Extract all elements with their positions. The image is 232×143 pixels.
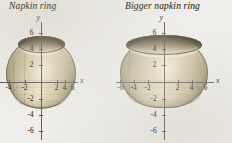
y-tick-2 bbox=[39, 65, 43, 66]
x-tick-label-6: 6 bbox=[67, 84, 78, 92]
panel-napkin-ring: Napkin ring y x bbox=[0, 0, 116, 143]
panel-title-napkin-ring: Napkin ring bbox=[9, 1, 56, 11]
y-axis-line bbox=[41, 22, 42, 140]
y-tick-6 bbox=[162, 33, 166, 34]
panel-title-bigger-napkin-ring: Bigger napkin ring bbox=[125, 1, 200, 11]
y-tick-2 bbox=[162, 65, 166, 66]
y-tick-label-neg2: -2 bbox=[24, 95, 37, 103]
x-tick-label-neg2: -2 bbox=[18, 84, 31, 92]
y-axis-line bbox=[164, 22, 165, 140]
y-tick-label-2: 2 bbox=[149, 61, 160, 69]
figure-page: Napkin ring y x bbox=[0, 0, 232, 143]
y-tick-label-4: 4 bbox=[26, 45, 37, 53]
x-tick-label-4: 4 bbox=[186, 84, 197, 92]
y-tick-4 bbox=[39, 49, 43, 50]
y-tick-label-2: 2 bbox=[26, 61, 37, 69]
x-axis-line bbox=[116, 82, 214, 83]
plot-area-napkin-ring: y x 6 4 2 -2 -4 -6 -4 -2 2 4 6 bbox=[0, 14, 116, 143]
y-tick-label-6: 6 bbox=[26, 29, 37, 37]
panel-bigger-napkin-ring: Bigger napkin ring y x bbox=[116, 0, 232, 143]
y-tick-label-6: 6 bbox=[149, 29, 160, 37]
y-tick-label-neg4: -4 bbox=[147, 111, 160, 119]
x-tick-label-neg4: -4 bbox=[127, 84, 140, 92]
y-tick-6 bbox=[39, 33, 43, 34]
y-tick-neg6 bbox=[39, 131, 43, 132]
y-tick-neg4 bbox=[39, 115, 43, 116]
x-axis-label: x bbox=[80, 76, 84, 85]
y-tick-neg6 bbox=[162, 131, 166, 132]
y-tick-label-neg2: -2 bbox=[147, 95, 160, 103]
y-axis-label: y bbox=[160, 13, 164, 22]
plot-area-bigger-napkin-ring: y x 6 4 2 -2 -4 -6 -6 -4 -2 2 bbox=[116, 14, 232, 143]
x-tick-label-neg2: -2 bbox=[141, 84, 154, 92]
x-axis-line bbox=[0, 82, 78, 83]
x-tick-label-2: 2 bbox=[172, 84, 183, 92]
y-tick-label-neg4: -4 bbox=[24, 111, 37, 119]
y-tick-neg4 bbox=[162, 115, 166, 116]
x-tick-label-neg4: -4 bbox=[2, 84, 15, 92]
y-tick-neg2 bbox=[39, 99, 43, 100]
y-tick-label-neg6: -6 bbox=[147, 127, 160, 135]
y-tick-neg2 bbox=[162, 99, 166, 100]
x-axis-label: x bbox=[216, 76, 220, 85]
y-axis-label: y bbox=[37, 13, 41, 22]
y-tick-label-neg6: -6 bbox=[24, 127, 37, 135]
y-tick-4 bbox=[162, 49, 166, 50]
y-tick-label-4: 4 bbox=[149, 45, 160, 53]
x-tick-label-neg6: -6 bbox=[114, 84, 127, 92]
x-tick-label-6: 6 bbox=[200, 84, 211, 92]
